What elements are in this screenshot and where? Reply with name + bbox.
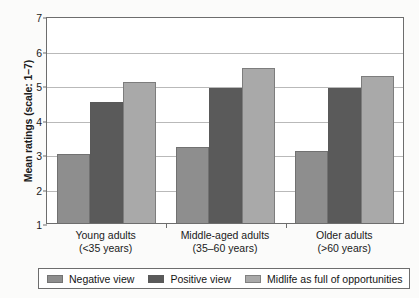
x-axis-tick xyxy=(286,223,287,228)
y-tick-label: 3 xyxy=(36,151,42,162)
bar-group xyxy=(295,18,395,223)
x-axis-category-label: Older adults(>60 years) xyxy=(285,229,404,255)
y-tick-label: 6 xyxy=(36,47,42,58)
bar xyxy=(328,88,361,223)
legend-item: Negative view xyxy=(47,273,134,285)
y-tick-label: 7 xyxy=(36,13,42,24)
bar xyxy=(242,68,275,223)
legend-swatch xyxy=(47,275,63,283)
legend-item: Midlife as full of opportunities xyxy=(245,273,402,285)
bar xyxy=(57,154,90,223)
y-tick-mark xyxy=(43,121,47,122)
chart-legend: Negative viewPositive viewMidlife as ful… xyxy=(38,268,410,289)
category-label-line1: Young adults xyxy=(75,229,135,241)
y-tick-mark xyxy=(43,156,47,157)
category-label-line1: Older adults xyxy=(316,229,373,241)
category-label-line2: (>60 years) xyxy=(285,242,404,255)
x-axis-category-label: Middle-aged adults(35–60 years) xyxy=(165,229,284,255)
y-tick-mark xyxy=(43,52,47,53)
y-tick-label: 1 xyxy=(36,220,42,231)
category-label-line2: (<35 years) xyxy=(46,242,165,255)
legend-item: Positive view xyxy=(148,273,231,285)
category-label-line2: (35–60 years) xyxy=(165,242,284,255)
y-axis-title: Mean ratings (scale: 1–7) xyxy=(22,31,34,211)
plot-area: 1234567 xyxy=(46,17,404,224)
legend-swatch xyxy=(245,275,261,283)
bar xyxy=(123,82,156,223)
bar xyxy=(361,76,394,223)
y-tick-label: 2 xyxy=(36,185,42,196)
bar-group xyxy=(57,18,157,223)
y-tick-mark xyxy=(43,225,47,226)
bar-group xyxy=(176,18,276,223)
y-tick-mark xyxy=(43,190,47,191)
bar xyxy=(176,147,209,223)
bar xyxy=(90,102,123,223)
legend-swatch xyxy=(148,275,164,283)
category-label-line1: Middle-aged adults xyxy=(181,229,270,241)
x-axis-tick xyxy=(166,223,167,228)
bar-chart-figure: Mean ratings (scale: 1–7) 1234567 Young … xyxy=(0,0,419,298)
y-tick-label: 5 xyxy=(36,82,42,93)
legend-label: Midlife as full of opportunities xyxy=(267,273,402,285)
y-tick-mark xyxy=(43,18,47,19)
y-tick-label: 4 xyxy=(36,116,42,127)
y-tick-mark xyxy=(43,87,47,88)
bar xyxy=(209,88,242,223)
legend-label: Negative view xyxy=(69,273,134,285)
bar xyxy=(295,151,328,223)
legend-label: Positive view xyxy=(170,273,231,285)
x-axis-category-label: Young adults(<35 years) xyxy=(46,229,165,255)
